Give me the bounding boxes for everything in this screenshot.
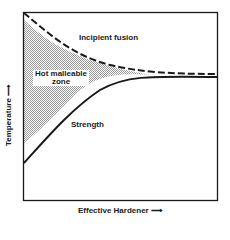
y-axis-label: Temperature ⟶: [4, 85, 13, 146]
strength-label: Strength: [71, 120, 104, 129]
x-axis-label: Effective Hardener ⟶: [78, 206, 162, 215]
arrow-up-icon: ⟶: [4, 85, 13, 96]
x-axis-text: Effective Hardener: [78, 206, 149, 215]
incipient-fusion-label: Incipient fusion: [79, 33, 138, 42]
hot-malleable-zone-label: Hot malleable zone: [33, 70, 89, 86]
y-axis-text: Temperature: [4, 98, 13, 146]
zone-label-line2: zone: [35, 78, 87, 86]
arrow-right-icon: ⟶: [151, 206, 162, 215]
